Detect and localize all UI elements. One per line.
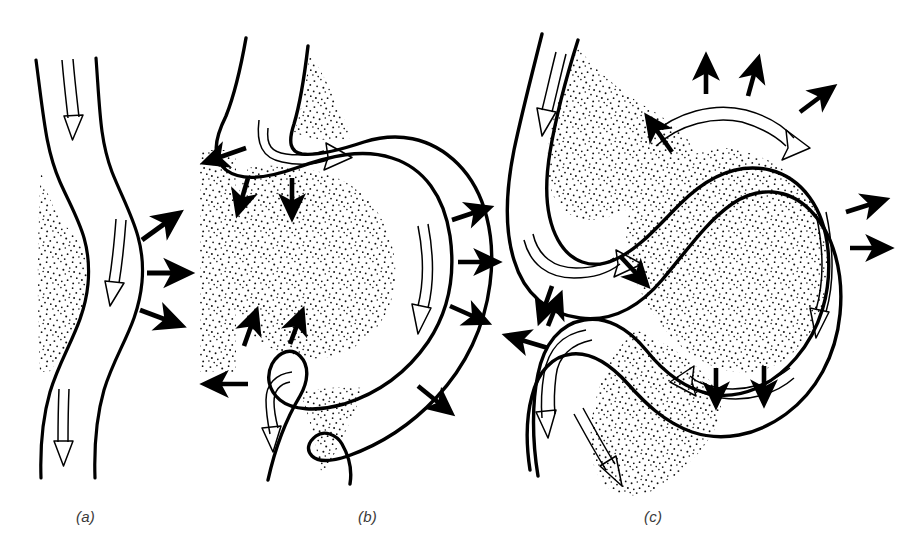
- panel-label-a: (a): [76, 508, 95, 525]
- panel-label-c: (c): [644, 508, 662, 525]
- panel-label-b: (b): [358, 508, 377, 525]
- jet-stream-meander-figure: [0, 0, 899, 558]
